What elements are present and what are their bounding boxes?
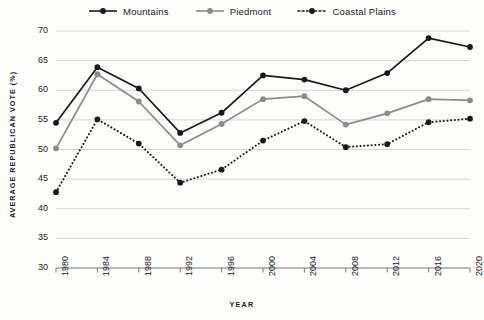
data-point[interactable] (426, 96, 432, 102)
data-point[interactable] (426, 119, 432, 125)
y-tick-label: 55 (22, 114, 48, 124)
data-point[interactable] (302, 118, 308, 124)
data-point[interactable] (384, 141, 390, 147)
data-point[interactable] (136, 99, 142, 105)
data-point[interactable] (177, 142, 183, 148)
plot-area (0, 0, 484, 320)
x-tick-label: 1992 (184, 256, 194, 276)
y-tick-label: 50 (22, 144, 48, 154)
x-tick-label: 2020 (474, 256, 484, 276)
data-point[interactable] (467, 97, 473, 103)
data-point[interactable] (467, 44, 473, 50)
data-point[interactable] (53, 120, 59, 126)
data-point[interactable] (384, 70, 390, 76)
data-point[interactable] (426, 35, 432, 41)
chart-figure: Mountains Piedmont Coastal Plains 303540… (0, 0, 484, 320)
series-line-coastal-plains (56, 119, 470, 192)
x-tick-label: 2016 (433, 256, 443, 276)
data-point[interactable] (53, 189, 59, 195)
x-tick-label: 2004 (308, 256, 318, 276)
y-tick-label: 40 (22, 203, 48, 213)
y-tick-label: 45 (22, 173, 48, 183)
data-point[interactable] (260, 73, 266, 79)
data-point[interactable] (177, 180, 183, 186)
data-point[interactable] (219, 167, 225, 173)
y-tick-label: 30 (22, 262, 48, 272)
data-point[interactable] (136, 86, 142, 92)
x-tick-label: 1984 (101, 256, 111, 276)
data-point[interactable] (260, 138, 266, 144)
x-tick-label: 1980 (60, 256, 70, 276)
x-tick-label: 2008 (350, 256, 360, 276)
y-tick-label: 60 (22, 84, 48, 94)
series-line-mountains (56, 38, 470, 133)
x-axis-label: YEAR (0, 300, 484, 309)
y-tick-label: 65 (22, 55, 48, 65)
data-point[interactable] (95, 64, 101, 70)
data-point[interactable] (219, 110, 225, 116)
data-point[interactable] (95, 116, 101, 122)
data-point[interactable] (177, 130, 183, 136)
data-point[interactable] (343, 122, 349, 128)
data-point[interactable] (384, 110, 390, 116)
data-point[interactable] (53, 145, 59, 151)
y-axis-label: AVERAGE REPUBLICAN VOTE (%) (8, 70, 17, 220)
x-tick-label: 1996 (226, 256, 236, 276)
data-point[interactable] (260, 96, 266, 102)
data-point[interactable] (219, 121, 225, 127)
x-tick-label: 2012 (391, 256, 401, 276)
data-point[interactable] (136, 141, 142, 147)
series-line-piedmont (56, 74, 470, 148)
x-tick-label: 2000 (267, 256, 277, 276)
data-point[interactable] (302, 77, 308, 83)
data-point[interactable] (343, 144, 349, 150)
data-point[interactable] (343, 87, 349, 93)
x-tick-label: 1988 (143, 256, 153, 276)
data-point[interactable] (467, 116, 473, 122)
data-point[interactable] (302, 93, 308, 99)
data-point[interactable] (95, 71, 101, 77)
y-tick-label: 70 (22, 25, 48, 35)
y-tick-label: 35 (22, 232, 48, 242)
